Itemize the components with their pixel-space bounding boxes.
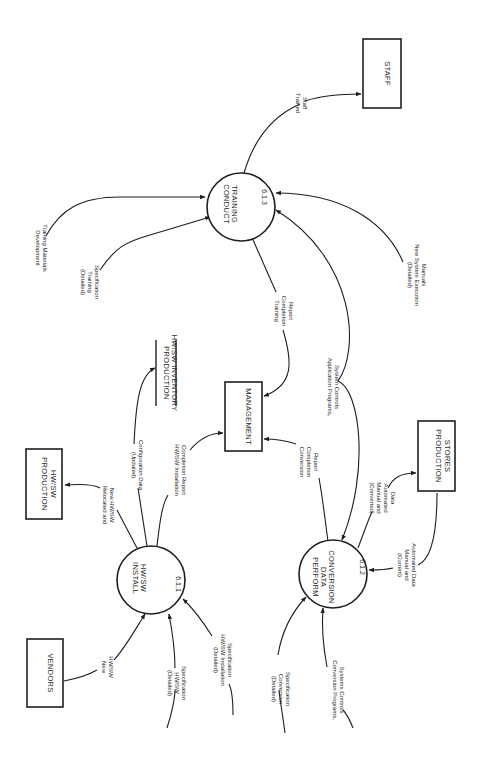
flow-label-line: New HW/SW bbox=[109, 488, 115, 523]
flow-label-line: Trained bbox=[295, 93, 301, 113]
entity-vendors-label: VENDORS bbox=[46, 653, 55, 692]
flow-label-application-programs: Application Programs, System Controls bbox=[327, 358, 340, 417]
process-perform-data-conversion: PERFORM DATA CONVERSION 6.1.2 bbox=[299, 540, 367, 608]
process-612-label-1: PERFORM bbox=[311, 557, 320, 597]
flow-label-development-training-materials: Development Training Materials bbox=[35, 224, 48, 271]
flow-label-line: Report bbox=[313, 453, 319, 471]
flow-label-line: HW/SW bbox=[174, 672, 180, 694]
flow-label-line: Manual and bbox=[376, 482, 382, 513]
entity-production-hwsw-label-1: PRODUCTION bbox=[40, 457, 49, 510]
flow-new-system-execution-manuals bbox=[276, 193, 403, 262]
datastore-label-2: HW/SW INVENTORY bbox=[170, 335, 179, 412]
flow-converted-data-end bbox=[388, 473, 416, 488]
datastore-production-hwsw-inventory: PRODUCTION HW/SW INVENTORY bbox=[156, 335, 179, 412]
process-install-hwsw: INSTALL HW/SW 6.1.1 bbox=[117, 546, 185, 614]
flow-label-line: Conversion bbox=[299, 447, 305, 477]
flow-trained-staff bbox=[244, 104, 300, 173]
flow-label-line: (Detailed) bbox=[407, 262, 413, 288]
flow-label-hwsw-installation-completion-report: HW/SW Installation Completion Report bbox=[174, 444, 187, 496]
flow-label-current-data: (Current) Manual and Automated Data bbox=[397, 543, 417, 587]
flow-label-training-completion-report: Training Completion Report bbox=[274, 296, 294, 326]
flow-new-hwsw bbox=[64, 670, 97, 681]
entity-management: MANAGEMENT bbox=[225, 382, 262, 451]
entity-staff: STAFF bbox=[363, 39, 401, 108]
flow-updated-configuration-data bbox=[138, 488, 147, 546]
flow-label-line: Specification bbox=[181, 666, 187, 700]
flow-label-hwsw-specification: (Detailed) HW/SW Specification bbox=[167, 666, 187, 700]
flow-label-new-hwsw: New HW/SW bbox=[101, 656, 114, 678]
flow-label-line: Conversion bbox=[278, 674, 284, 704]
flow-label-trained-staff: Trained Staff bbox=[295, 93, 308, 113]
flow-label-hwsw-installation-specification: (Detailed) HW/SW Installation Specificat… bbox=[213, 634, 233, 686]
flow-label-converted-data: (Converted) Manual and Automated Data bbox=[369, 482, 396, 514]
flow-label-line: HW/SW bbox=[108, 656, 114, 678]
entity-production-hwsw-label-2: HW/SW bbox=[49, 470, 58, 499]
flow-hwsw-installation-specification bbox=[229, 684, 233, 715]
flow-label-conversion-specification: (Detailed) Conversion Specification bbox=[271, 672, 291, 706]
flow-label-line: Manual and bbox=[404, 549, 410, 580]
flow-training-specification bbox=[100, 217, 210, 270]
flow-label-line: HW/SW Installation bbox=[174, 444, 180, 496]
process-conduct-training: CONDUCT TRAINING 6.1.3 bbox=[207, 173, 275, 241]
process-613-label-2: TRAINING bbox=[230, 185, 239, 223]
entity-vendors: VENDORS bbox=[27, 639, 63, 707]
data-flow-diagram: STAFF MANAGEMENT PRODUCTION STORES PRODU… bbox=[0, 0, 480, 771]
flow-label-conversion-completion-report: Conversion Completion Report bbox=[299, 447, 319, 477]
entity-management-label: MANAGEMENT bbox=[244, 388, 253, 445]
flow-label-line: Automated Data bbox=[411, 543, 417, 587]
flow-development-training-materials bbox=[46, 197, 205, 236]
flow-label-line: New bbox=[101, 661, 107, 674]
flow-label-line: (Current) bbox=[397, 553, 403, 577]
flow-label-line: (Updated) bbox=[131, 452, 137, 479]
process-613-label-1: CONDUCT bbox=[222, 184, 231, 224]
flow-label-line: Completion bbox=[281, 296, 287, 326]
flow-label-line: Automated bbox=[383, 483, 389, 512]
flow-label-line: Systems Controls bbox=[339, 666, 345, 713]
process-611-label-1: INSTALL bbox=[131, 562, 140, 594]
entity-staff-label: STAFF bbox=[383, 61, 392, 86]
flow-label-line: (Detailed) bbox=[213, 647, 219, 673]
process-611-label-2: HW/SW bbox=[139, 564, 148, 593]
flow-label-line: Manuals bbox=[421, 264, 427, 287]
flow-label-line: (Detailed) bbox=[167, 670, 173, 696]
flow-relocated-new-hwsw bbox=[117, 510, 137, 548]
flow-label-line: Specification bbox=[94, 265, 100, 299]
process-612-label-3: CONVERSION bbox=[327, 550, 336, 603]
flow-current-data bbox=[418, 493, 437, 565]
flow-label-updated-configuration-data: (Updated) Configuration Data bbox=[131, 440, 144, 491]
flow-label-line: Report bbox=[288, 302, 294, 320]
flow-label-line: Relocated and bbox=[102, 486, 108, 525]
process-612-number: 6.1.2 bbox=[359, 559, 366, 575]
flow-label-line: Development bbox=[35, 230, 41, 266]
flow-label-relocated-new-hwsw: Relocated and New HW/SW bbox=[102, 486, 115, 525]
flow-label-line: Completion bbox=[306, 447, 312, 477]
flow-label-line: (Detailed) bbox=[80, 269, 86, 295]
flow-conversion-completion-report bbox=[319, 478, 328, 541]
entity-production-hwsw: PRODUCTION HW/SW bbox=[26, 449, 62, 519]
entity-production-stores-label-2: STORES bbox=[443, 440, 452, 473]
flow-converted-data bbox=[358, 512, 372, 548]
flow-label-line: Training bbox=[274, 300, 280, 321]
flow-hwsw-installation-completion-report bbox=[157, 495, 168, 546]
flow-label-line: Conversion Programs, bbox=[332, 660, 338, 720]
entity-production-stores: PRODUCTION STORES bbox=[418, 421, 455, 491]
flow-training-completion-report bbox=[250, 233, 276, 292]
flow-label-line: Specification bbox=[227, 643, 233, 677]
flow-label-line: Data bbox=[390, 492, 396, 505]
flow-label-line: (Detailed) bbox=[271, 676, 277, 702]
flow-label-line: Application Programs, bbox=[327, 358, 333, 417]
entity-production-stores-label-1: PRODUCTION bbox=[434, 429, 443, 482]
flow-label-line: New System Execution bbox=[414, 244, 420, 306]
flow-label-new-system-execution-manuals: (Detailed) New System Execution Manuals bbox=[407, 244, 427, 306]
flow-label-line: Completion Report bbox=[181, 445, 187, 495]
flow-label-line: System Controls bbox=[334, 365, 340, 409]
flow-label-line: Specification bbox=[285, 672, 291, 706]
flow-label-training-specification: (Detailed) Training Specification bbox=[80, 265, 100, 299]
process-611-number: 6.1.1 bbox=[175, 576, 182, 592]
flow-label-line: Staff bbox=[302, 97, 308, 110]
flow-label-conversion-programs: Conversion Programs, Systems Controls bbox=[332, 660, 345, 720]
process-612-label-2: DATA bbox=[319, 567, 328, 587]
flow-label-line: (Converted) bbox=[369, 482, 375, 514]
process-613-number: 6.1.3 bbox=[261, 189, 268, 205]
datastore-label-1: PRODUCTION bbox=[162, 346, 171, 399]
